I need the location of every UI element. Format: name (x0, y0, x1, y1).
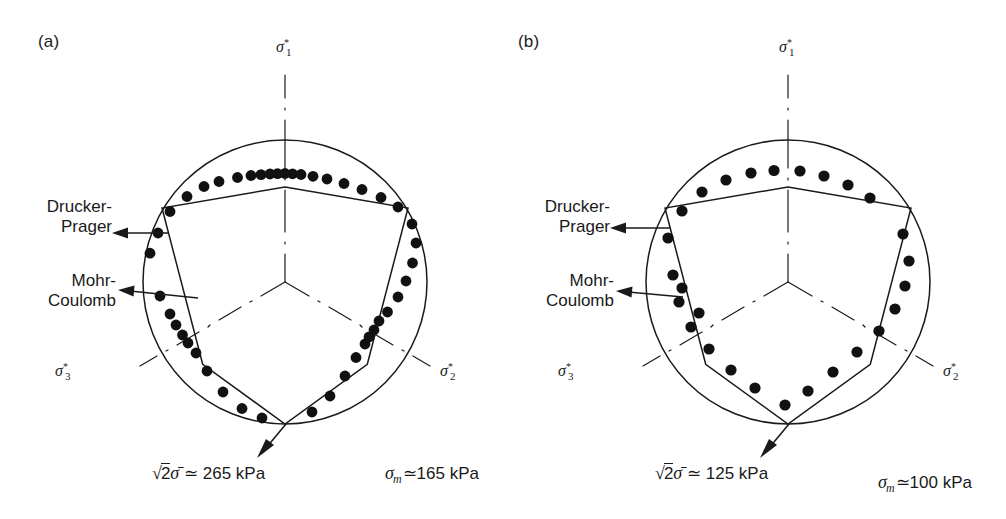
deviatoric-value: 265 (203, 464, 231, 483)
panel-b-deviatoric-caption: √2σ̄ ≃ 125 kPa (655, 463, 768, 484)
panel-b-drucker-prager-line1: Drucker- (545, 197, 610, 216)
sigma-1-subscript: 1 (789, 46, 795, 58)
panel-a-axis-label-sigma2: σ*2 (440, 362, 455, 380)
panel-a-mean-stress-caption: σm≃165 kPa (385, 463, 479, 484)
panel-a-drucker-prager-line1: Drucker- (47, 197, 112, 216)
panel-b-deviatoric-arrow (760, 424, 789, 458)
sigma-glyph: σ (440, 362, 448, 379)
mean-stress-value: 100 (910, 473, 938, 492)
mean-stress-unit: kPa (450, 464, 479, 483)
panel-b-mohr-coulomb-line1: Mohr- (570, 271, 614, 290)
sigma-glyph: σ (779, 38, 787, 55)
sigma-3-subscript: 3 (568, 370, 574, 382)
sigma-2-subscript: 2 (953, 370, 959, 382)
panel-a-label: (a) (38, 32, 59, 52)
panel-a-graphics (112, 75, 430, 458)
deviatoric-value: 125 (706, 464, 734, 483)
panel-b-mohr-coulomb-line2: Coulomb (546, 291, 614, 310)
sigma-glyph: σ (943, 362, 951, 379)
panel-b-label: (b) (518, 32, 539, 52)
relation-symbol: ≃ (184, 464, 198, 483)
figure-root: (a) Drucker- Prager Mohr- Coulomb σ*1 σ*… (0, 0, 1006, 519)
panel-a-deviatoric-caption: √2σ̄ ≃ 265 kPa (152, 463, 265, 484)
panel-b-axis-label-sigma2: σ*2 (943, 362, 958, 380)
sqrt-radicand: 2 (161, 463, 170, 484)
panel-b-drucker-prager-leader (610, 223, 670, 234)
panel-b-mohr-coulomb-leader (616, 287, 683, 298)
relation-symbol: ≃ (403, 464, 417, 483)
sigma-1-subscript: 1 (286, 46, 292, 58)
sigma-3-subscript: 3 (65, 370, 71, 382)
panel-b-drucker-prager-label: Drucker- Prager (498, 197, 610, 237)
panel-b-drucker-prager-line2: Prager (559, 217, 610, 236)
sqrt-symbol: √2 (152, 463, 170, 484)
panel-b-mean-stress-caption: σm≃100 kPa (878, 472, 972, 493)
panel-a-drucker-prager-label: Drucker- Prager (0, 197, 112, 237)
panel-b-axis-label-sigma3: σ*3 (558, 362, 573, 380)
panel-a-drucker-prager-line2: Prager (61, 217, 112, 236)
mean-stress-subscript: m (393, 472, 402, 486)
panel-a-data-points (145, 168, 422, 423)
mean-stress-value: 165 (417, 464, 445, 483)
relation-symbol: ≃ (896, 473, 910, 492)
panel-a-mohr-coulomb-line1: Mohr- (72, 271, 116, 290)
deviatoric-unit: kPa (739, 464, 768, 483)
sigma-glyph: σ (558, 362, 566, 379)
relation-symbol: ≃ (687, 464, 701, 483)
mean-stress-subscript: m (886, 481, 895, 495)
panel-a-axis-label-sigma1: σ*1 (276, 38, 291, 56)
sigma-bar-glyph: σ̄ (673, 463, 682, 483)
panel-a-mohr-coulomb-label: Mohr- Coulomb (0, 271, 116, 311)
figure-canvas (0, 0, 1006, 519)
panel-a-axis-label-sigma3: σ*3 (55, 362, 70, 380)
sigma-glyph: σ (55, 362, 63, 379)
sigma-bar-glyph: σ̄ (170, 463, 179, 483)
panel-a-deviatoric-arrow (257, 424, 286, 458)
panel-b-axis-label-sigma1: σ*1 (779, 38, 794, 56)
panel-b-mohr-coulomb-label: Mohr- Coulomb (494, 271, 614, 311)
panel-a-mohr-coulomb-line2: Coulomb (48, 291, 116, 310)
sqrt-symbol: √2 (655, 463, 673, 484)
sigma-2-subscript: 2 (450, 370, 456, 382)
panel-b-graphics (610, 75, 933, 458)
sigma-glyph: σ (276, 38, 284, 55)
deviatoric-unit: kPa (236, 464, 265, 483)
sqrt-radicand: 2 (664, 463, 673, 484)
mean-stress-unit: kPa (943, 473, 972, 492)
